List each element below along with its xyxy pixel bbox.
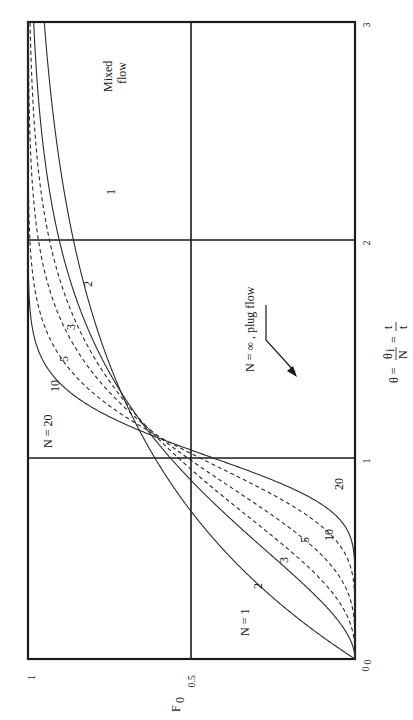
curve-label-10-lower: 10 xyxy=(322,529,336,541)
curve-label-3-lower: 3 xyxy=(277,557,291,563)
curve-label-5-upper: 5 xyxy=(57,356,71,362)
plug-flow-label: N = ∞ , plug flow xyxy=(243,286,257,372)
curve-n2 xyxy=(34,22,355,659)
f-tick-1: 1 xyxy=(26,675,37,680)
curve-label-1-upper: 1 xyxy=(104,189,118,195)
curve-n3 xyxy=(30,22,355,659)
plug-flow-arrow xyxy=(266,305,295,372)
mixed-label: Mixed xyxy=(101,61,115,92)
svg-text:0: 0 xyxy=(173,697,187,703)
curve-label-2-upper: 2 xyxy=(81,281,95,287)
curve-label-5-lower: 5 xyxy=(298,537,312,543)
theta-tick-0: 0 xyxy=(362,660,373,665)
curve-label-20-upper: N = 20 xyxy=(41,415,55,448)
curve-label-2-lower: 2 xyxy=(251,583,265,589)
svg-text:=: = xyxy=(387,336,401,343)
f-axis-label: F 0 xyxy=(169,697,187,712)
theta-tick-2: 2 xyxy=(361,241,372,246)
svg-text:θ =: θ = xyxy=(387,367,401,383)
svg-text:t: t xyxy=(381,325,395,329)
svg-text:N: N xyxy=(396,350,410,359)
f-tick-half: 0.5 xyxy=(186,675,197,688)
svg-text:F: F xyxy=(169,705,183,712)
theta-tick-3: 3 xyxy=(361,23,372,28)
curve-label-10-upper: 10 xyxy=(48,380,62,392)
svg-text:i: i xyxy=(383,348,397,352)
arrow-head-icon xyxy=(287,366,297,377)
theta-tick-1: 1 xyxy=(361,459,372,464)
theta-axis-label: θ = θ i N = t t xyxy=(381,322,410,383)
f-tick-0: 0 xyxy=(360,667,371,672)
curve-label-3-upper: 3 xyxy=(64,324,78,330)
curve-label-20-lower: 20 xyxy=(332,478,346,490)
curve-n1 xyxy=(44,22,355,659)
svg-text:t: t xyxy=(396,325,410,329)
curve-label-n1-lower: N = 1 xyxy=(238,609,252,636)
rtd-chart: N = ∞ , plug flow Mixed flow 1 2 3 5 10 … xyxy=(0,0,413,720)
flow-label: flow xyxy=(115,62,129,84)
svg-text:θ: θ xyxy=(381,353,395,359)
